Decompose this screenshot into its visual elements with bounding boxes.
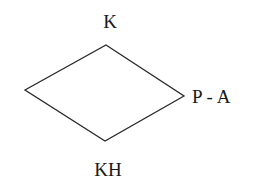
label-top: K [103, 11, 117, 32]
label-right: P - A [192, 86, 231, 107]
rhombus-shape [25, 45, 184, 141]
diagram-canvas: K P - A KH [0, 0, 265, 180]
label-bottom: KH [94, 159, 122, 180]
